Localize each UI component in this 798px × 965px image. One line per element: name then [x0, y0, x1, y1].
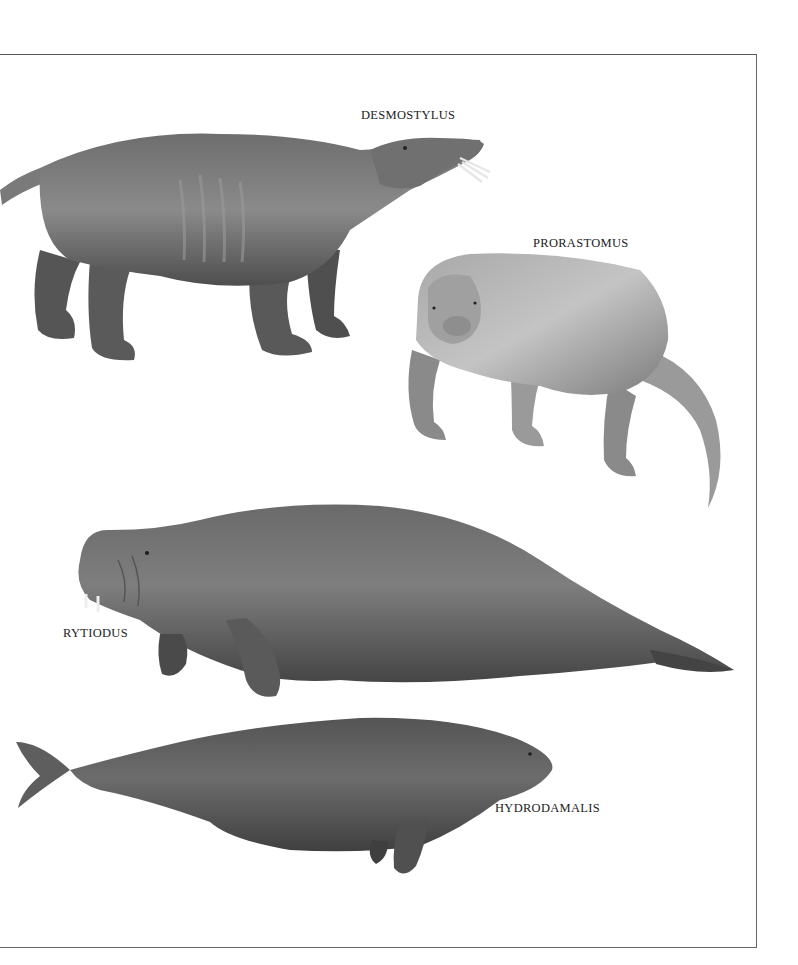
desmostylus-illustration — [0, 134, 490, 361]
prorastomus-illustration — [408, 253, 720, 508]
illustration-canvas — [0, 0, 798, 965]
label-prorastomus: PRORASTOMUS — [533, 236, 628, 251]
hydrodamalis-illustration — [16, 718, 552, 874]
label-desmostylus: DESMOSTYLUS — [361, 108, 455, 123]
label-rytiodus: RYTIODUS — [63, 626, 128, 641]
label-hydrodamalis: HYDRODAMALIS — [495, 801, 600, 816]
rytiodus-illustration — [78, 505, 734, 697]
